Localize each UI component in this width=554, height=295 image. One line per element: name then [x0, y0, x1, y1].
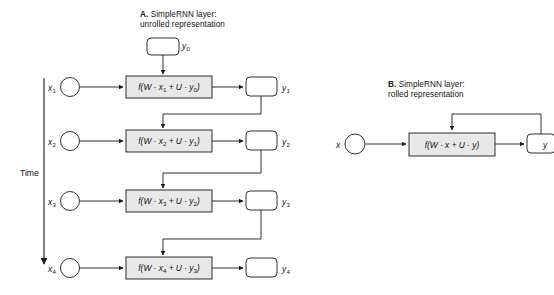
output-label-y2: y2: [282, 137, 290, 147]
function-formula-step3: f(W · x3 + U · y2): [126, 196, 212, 206]
input-circle-x3: [61, 192, 80, 211]
recurrence-path-step3-to-step4: [163, 210, 261, 255]
output-state-box-y2: [246, 131, 277, 150]
output-label-y1: y1: [282, 83, 290, 93]
input-label-x2: x2: [48, 137, 56, 147]
function-formula-rolled: f(W · x + U · y): [409, 140, 495, 150]
function-formula-step2: f(W · x2 + U · y1): [126, 136, 212, 146]
input-label-x-rolled: x: [336, 140, 340, 150]
initial-state-box: [147, 38, 179, 55]
output-state-box-y: [527, 134, 554, 153]
figure-canvas: A. SimpleRNN layer:unrolled representati…: [0, 0, 554, 295]
function-formula-step4: f(W · x4 + U · y3): [126, 263, 212, 273]
input-label-x1: x1: [48, 83, 56, 93]
function-formula-step1: f(W · x1 + U · y0): [126, 82, 212, 92]
output-label-y-rolled: y: [543, 140, 547, 150]
input-circle-x2: [61, 132, 80, 151]
output-label-y3: y3: [282, 197, 290, 207]
input-label-x3: x3: [48, 197, 56, 207]
input-label-x4: x4: [48, 264, 56, 274]
recurrence-loop-rolled: [452, 114, 541, 134]
recurrence-path-step2-to-step3: [163, 150, 261, 188]
input-circle-x4: [61, 259, 80, 278]
recurrence-path-step1-to-step2: [163, 96, 261, 128]
initial-state-label: y0: [182, 41, 190, 51]
time-axis-label: Time: [20, 168, 39, 178]
input-circle-x: [345, 134, 365, 154]
output-state-box-y3: [246, 191, 277, 210]
input-circle-x1: [61, 78, 80, 97]
output-state-box-y4: [246, 258, 277, 277]
output-state-box-y1: [246, 77, 277, 96]
output-label-y4: y4: [282, 264, 290, 274]
